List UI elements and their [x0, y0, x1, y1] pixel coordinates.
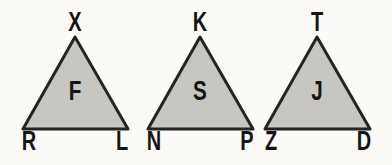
top-vertex-label: X — [68, 9, 81, 36]
triangle-figure: X F R L K S N P T J Z D — [0, 0, 392, 165]
center-label: F — [69, 77, 82, 105]
bottom-left-vertex-label: N — [147, 128, 161, 155]
center-label: J — [311, 77, 323, 105]
triangle-group-2: K S N P — [137, 0, 264, 165]
top-vertex-label: K — [193, 9, 207, 36]
bottom-left-vertex-label: Z — [265, 128, 277, 155]
triangle-group-3: T J Z D — [254, 0, 381, 165]
bottom-right-vertex-label: D — [357, 128, 371, 155]
bottom-left-vertex-label: R — [22, 128, 36, 155]
bottom-right-vertex-label: P — [240, 128, 253, 155]
bottom-right-vertex-label: L — [116, 128, 128, 155]
center-label: S — [193, 77, 207, 105]
top-vertex-label: T — [311, 9, 323, 36]
triangle-group-1: X F R L — [12, 0, 139, 165]
